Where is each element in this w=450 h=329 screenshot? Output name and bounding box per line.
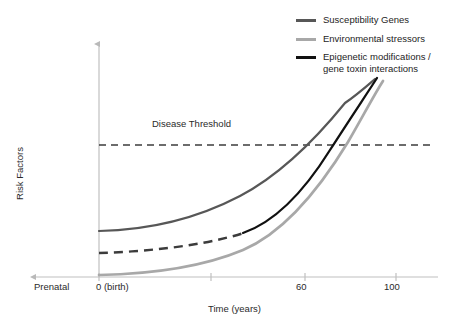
legend-swatch-icon	[296, 56, 316, 59]
legend-label: Environmental stressors	[323, 33, 425, 45]
legend-item-environmental-stressors: Environmental stressors	[296, 33, 446, 45]
legend-swatch-icon	[296, 38, 316, 41]
risk-factors-chart: Susceptibility Genes Environmental stres…	[0, 0, 450, 329]
y-axis-label: Risk Factors	[14, 139, 25, 209]
chart-legend: Susceptibility Genes Environmental stres…	[296, 14, 446, 81]
series-susceptibility-genes	[99, 79, 375, 231]
disease-threshold-label: Disease Threshold	[152, 118, 231, 129]
x-axis-label: Time (years)	[208, 303, 261, 314]
x-tick-label-birth: 0 (birth)	[96, 281, 129, 292]
x-tick-label-100: 100	[384, 281, 400, 292]
legend-label: Epigenetic modifications / gene toxin in…	[323, 51, 431, 74]
x-tick-label-prenatal: Prenatal	[34, 281, 69, 292]
legend-item-susceptibility-genes: Susceptibility Genes	[296, 14, 446, 26]
legend-label: Susceptibility Genes	[323, 14, 409, 26]
legend-item-epigenetic-modifications: Epigenetic modifications / gene toxin in…	[296, 51, 446, 74]
series-epigenetic-modifications	[243, 78, 377, 233]
series-dashed-mid-curve	[99, 232, 246, 253]
x-tick-label-60: 60	[296, 281, 307, 292]
legend-swatch-icon	[296, 19, 316, 22]
